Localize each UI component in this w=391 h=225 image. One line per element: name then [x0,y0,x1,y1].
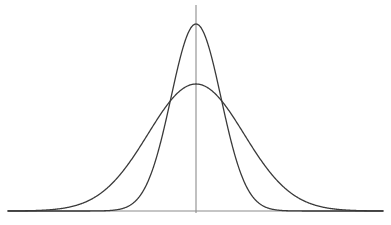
plot-area [0,0,391,225]
bell-curve-figure [0,0,391,225]
